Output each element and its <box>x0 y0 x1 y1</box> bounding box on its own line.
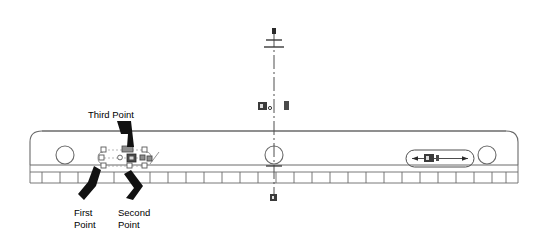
slot-dim-text-inner <box>426 156 429 160</box>
slot-dim-text-tail <box>436 155 439 161</box>
grip-bottom-left[interactable] <box>101 163 106 168</box>
label-second-point-line1: Second <box>118 207 150 218</box>
centerline-top-cap <box>272 28 276 34</box>
center-bottom-marker-inner <box>272 196 274 199</box>
grip-mid-far-right[interactable] <box>147 156 152 161</box>
label-first-point-line2: Point <box>74 219 96 230</box>
slot-arrow-left <box>412 156 418 161</box>
technical-drawing-svg: Third Point First Point Second Point <box>0 0 548 242</box>
grip-mid-circle[interactable] <box>118 155 123 160</box>
circle-hole-left <box>56 146 74 164</box>
centerline-symbol-bar <box>284 101 289 110</box>
grip-bottom-right[interactable] <box>142 163 147 168</box>
grip-mid-hot-inner <box>130 157 134 160</box>
grip-mid-right[interactable] <box>140 155 145 160</box>
slot-arrow-right <box>462 156 468 161</box>
arrow-second-point <box>124 170 143 200</box>
slot-dimension-group <box>406 150 474 167</box>
centerline-symbol-dot <box>268 106 271 109</box>
grip-top-left[interactable] <box>101 147 106 152</box>
circle-hole-right <box>478 146 496 164</box>
label-second-point-line2: Point <box>118 219 140 230</box>
centerline-group <box>264 28 284 196</box>
grip-top-right[interactable] <box>142 147 147 152</box>
grip-bottom-center[interactable] <box>127 163 132 168</box>
label-third-point: Third Point <box>88 109 134 120</box>
arrow-third-point <box>117 121 134 147</box>
grip-mid-left[interactable] <box>99 155 104 160</box>
centerline-symbol-inner <box>260 104 263 108</box>
drawing-canvas: Third Point First Point Second Point <box>0 0 548 242</box>
label-first-point-line1: First <box>74 207 93 218</box>
